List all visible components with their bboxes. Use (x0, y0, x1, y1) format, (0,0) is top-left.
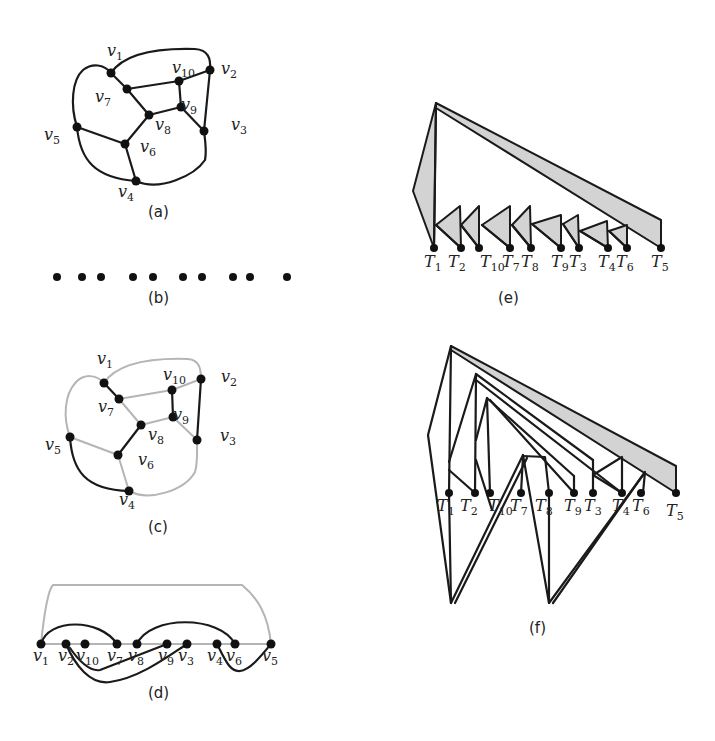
edge-v7-v10 (119, 390, 172, 399)
tree-node-T2 (471, 489, 479, 497)
edge-v2-v3-highlight (197, 379, 201, 440)
vertex-dot (283, 273, 291, 281)
tree-node-T2 (457, 244, 465, 252)
label-T5: T5 (666, 501, 684, 523)
label-v10: v10 (163, 365, 186, 387)
label-v5: v5 (44, 125, 60, 147)
label-v9: v9 (158, 646, 174, 668)
label-v8: v8 (128, 646, 144, 668)
tree-edge (523, 455, 643, 603)
label-v8: v8 (155, 115, 171, 137)
vertex-v8 (145, 111, 154, 120)
vertex-v5 (73, 123, 82, 132)
edge-v6-v4 (118, 455, 129, 491)
tree-node-T8 (527, 244, 535, 252)
label-T1: T1 (424, 252, 442, 274)
arc-v1-v7 (41, 625, 117, 645)
tree-node-T9 (557, 244, 565, 252)
label-T7: T7 (502, 252, 520, 274)
panel-c-graph: v1 v10 v2 v7 v9 v8 v3 v5 v6 v4 (c) (45, 349, 237, 536)
vertex-dot (179, 273, 187, 281)
label-v1: v1 (107, 41, 123, 63)
label-T10: T10 (480, 252, 505, 274)
tree-edge (593, 475, 622, 493)
edge-v7-v8 (127, 89, 149, 115)
panel-b-vertices: (b) (53, 273, 291, 307)
caption-a: (a) (148, 203, 169, 221)
panel-e-tree-decomposition: T1 T2 T10 T7 T8 T9 T3 T4 T6 T5 (e) (413, 103, 669, 307)
label-T6: T6 (616, 252, 634, 274)
label-T7: T7 (510, 496, 528, 518)
label-T2: T2 (448, 252, 466, 274)
label-T3: T3 (584, 496, 602, 518)
panel-f-tree-decomposition: T1 T2 T10 T7 T8 T9 T3 T4 T6 T5 (f) (428, 346, 684, 637)
panel-d-linear-layout: v1 v2 v10 v7 v8 v9 v3 v4 v6 v5 (d) (33, 585, 278, 702)
vertex-v5 (66, 433, 75, 442)
vertex-dot (246, 273, 254, 281)
vertex-v2 (206, 66, 215, 75)
tree-edge (449, 374, 476, 493)
figure-canvas: v1 v10 v2 v7 v9 v8 v3 v5 v6 v4 (a) (b) (0, 0, 715, 741)
label-v4: v4 (118, 182, 134, 204)
frame-edge-v1-v5 (41, 585, 271, 644)
edge-v5-v6 (77, 127, 125, 144)
shaded-triangle (482, 206, 510, 248)
label-T1: T1 (437, 496, 455, 518)
vertex-v1 (107, 69, 116, 78)
label-v9: v9 (181, 95, 197, 117)
vertex-dot (229, 273, 237, 281)
vertex-dot (149, 273, 157, 281)
label-T9: T9 (564, 496, 582, 518)
caption-e: (e) (498, 289, 519, 307)
caption-f: (f) (529, 619, 546, 637)
tree-node-T7 (506, 244, 514, 252)
caption-b: (b) (148, 289, 169, 307)
caption-c: (c) (148, 518, 168, 536)
label-v9: v9 (173, 405, 189, 427)
caption-d: (d) (148, 684, 169, 702)
label-v7: v7 (107, 646, 123, 668)
vertex-dot (198, 273, 206, 281)
tree-edge (553, 472, 645, 603)
vertex-dot (53, 273, 61, 281)
edge-v1-v2 (111, 49, 210, 73)
label-v3: v3 (178, 646, 194, 668)
edge-v8-v9 (149, 107, 181, 115)
vertex-v6 (114, 451, 123, 460)
label-v3: v3 (231, 115, 247, 137)
edge-v2-v3 (204, 70, 210, 131)
vertex-v1 (100, 379, 109, 388)
edge-v7-v8 (119, 399, 141, 425)
vertex-v3 (200, 127, 209, 136)
vertex-dot (97, 273, 105, 281)
edge-v1-v2 (104, 359, 201, 383)
tree-node-T5 (672, 489, 680, 497)
label-v1: v1 (97, 349, 113, 371)
vertex-v6 (121, 140, 130, 149)
tree-node-T6 (623, 244, 631, 252)
label-v5: v5 (45, 435, 61, 457)
label-v2: v2 (221, 367, 237, 389)
label-T4: T4 (598, 252, 616, 274)
edge-v5-v6 (70, 437, 118, 455)
label-v1: v1 (33, 646, 49, 668)
label-v5: v5 (262, 646, 278, 668)
label-T8: T8 (521, 252, 539, 274)
tree-node-T10 (475, 244, 483, 252)
label-v10: v10 (172, 58, 195, 80)
vertex-dot (129, 273, 137, 281)
vertex-v4 (132, 177, 141, 186)
vertex-v3 (193, 436, 202, 445)
vertex-v7 (115, 395, 124, 404)
edge-v7-v10 (127, 81, 179, 89)
tree-edge (451, 455, 523, 603)
vertex-dot (78, 273, 86, 281)
tree-node-T4 (604, 244, 612, 252)
label-v8: v8 (148, 425, 164, 447)
panel-a-graph: v1 v10 v2 v7 v9 v8 v3 v5 v6 v4 (a) (44, 41, 247, 221)
tree-edge (455, 458, 527, 603)
label-T9: T9 (551, 252, 569, 274)
label-v6: v6 (140, 137, 156, 159)
label-T6: T6 (632, 496, 650, 518)
label-T5: T5 (651, 252, 669, 274)
